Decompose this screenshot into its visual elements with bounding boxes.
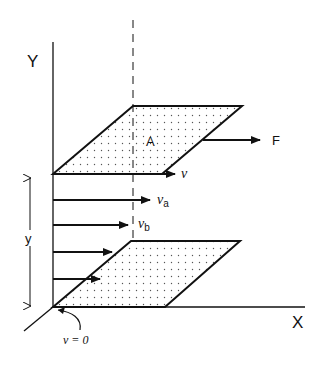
area-label: A	[146, 134, 155, 149]
x-axis-label: X	[292, 313, 303, 332]
bottom-plate	[53, 241, 240, 307]
origin-pointer-arrow	[58, 310, 80, 330]
velocity-label-va: va	[157, 192, 169, 209]
velocity-label-vb: vb	[138, 216, 150, 233]
y-axis-label: Y	[27, 52, 38, 71]
z-axis	[24, 307, 53, 331]
boundary-condition-label: v = 0	[63, 333, 88, 347]
separation-label: y	[25, 231, 32, 246]
force-label: F	[272, 133, 280, 148]
shear-flow-diagram: Y X A F v va vb y v = 0	[0, 0, 320, 366]
velocity-label-v: v	[181, 166, 188, 181]
